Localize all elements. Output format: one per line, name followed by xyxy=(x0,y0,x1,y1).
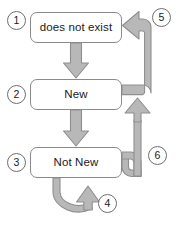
marker-label-6: 6 xyxy=(155,150,161,161)
marker-circle-3: 3 xyxy=(7,153,26,172)
arrow-new-to-does-not-exist xyxy=(122,12,151,95)
state-box-does-not-exist[interactable]: does not exist xyxy=(30,12,122,43)
state-label-new: New xyxy=(64,89,87,101)
marker-label-4: 4 xyxy=(105,198,111,209)
marker-circle-1: 1 xyxy=(7,11,26,30)
marker-circle-5: 5 xyxy=(152,8,171,27)
state-label-does-not-exist: does not exist xyxy=(40,22,112,34)
marker-label-3: 3 xyxy=(14,157,20,168)
state-box-not-new[interactable]: Not New xyxy=(30,147,122,178)
arrow-does-not-exist-to-new xyxy=(64,43,89,78)
marker-label-2: 2 xyxy=(14,89,20,100)
state-diagram: does not exist New Not New 1 2 3 4 5 6 xyxy=(0,0,176,226)
marker-label-5: 5 xyxy=(159,12,165,23)
arrow-new-to-not-new xyxy=(64,110,89,146)
arrow-not-new-self-loop xyxy=(53,178,100,212)
state-box-new[interactable]: New xyxy=(30,79,122,110)
marker-circle-2: 2 xyxy=(7,85,26,104)
arrow-not-new-to-new xyxy=(122,98,150,177)
marker-circle-6: 6 xyxy=(148,146,167,165)
marker-circle-4: 4 xyxy=(98,194,117,213)
marker-label-1: 1 xyxy=(14,15,20,26)
state-label-not-new: Not New xyxy=(54,157,99,169)
